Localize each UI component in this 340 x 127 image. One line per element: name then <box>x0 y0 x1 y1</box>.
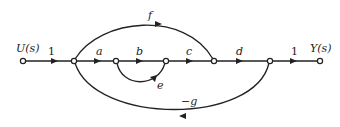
output-label: Y(s) <box>310 42 332 55</box>
node-1 <box>71 58 76 63</box>
label-e: e <box>157 79 164 92</box>
node-4 <box>211 58 216 63</box>
branch-g <box>75 63 269 110</box>
label-output-gain: 1 <box>291 45 298 58</box>
label-g: −g <box>181 95 197 108</box>
label-input-gain: 1 <box>48 45 55 58</box>
node-3 <box>163 58 168 63</box>
label-a: a <box>96 45 103 58</box>
node-output <box>317 58 322 63</box>
label-c: c <box>186 45 192 58</box>
arrow-g-icon <box>179 113 186 119</box>
signal-flow-graph: U(s) 1 a b c d 1 Y(s) f e −g <box>0 0 340 127</box>
node-2 <box>113 58 118 63</box>
arrow-output-icon <box>290 58 297 64</box>
label-d: d <box>236 45 243 58</box>
label-f: f <box>147 9 154 22</box>
arrow-input-icon <box>51 58 58 64</box>
input-label: U(s) <box>16 42 40 55</box>
arrow-a-icon <box>94 58 101 64</box>
arrow-c-icon <box>186 58 193 64</box>
arrow-e-icon <box>150 75 157 82</box>
arrow-b-icon <box>136 58 143 64</box>
node-5 <box>267 58 272 63</box>
arrow-d-icon <box>236 58 243 64</box>
node-input <box>20 58 25 63</box>
label-b: b <box>136 45 143 58</box>
